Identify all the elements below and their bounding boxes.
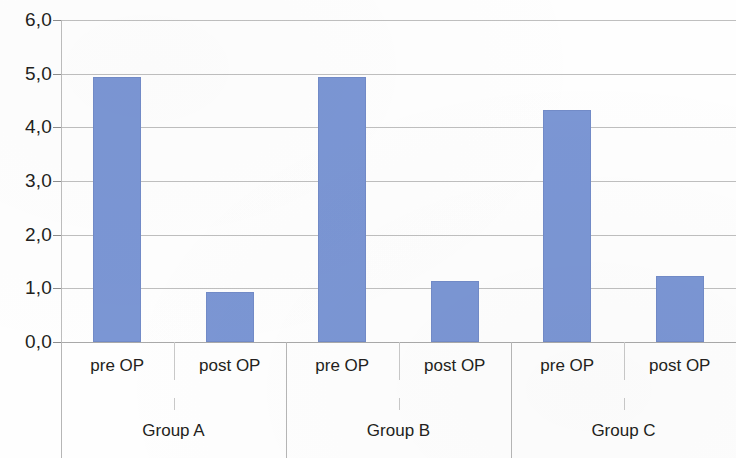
group-label-cell: Group B — [286, 398, 511, 458]
y-axis-tick-label: 6,0 — [6, 9, 52, 31]
condition-label: post OP — [199, 356, 260, 376]
group-label-cell: Group A — [61, 398, 286, 458]
category-axis: pre OPpost OPpre OPpost OPpre OPpost OP … — [61, 342, 736, 458]
y-axis-tick-label: 1,0 — [6, 277, 52, 299]
y-axis-tick — [53, 342, 61, 343]
y-axis-tick-label: 3,0 — [6, 170, 52, 192]
group-center-tick — [399, 398, 400, 410]
condition-label: post OP — [424, 356, 485, 376]
group-label-cell: Group C — [511, 398, 736, 458]
y-axis-tick — [53, 288, 61, 289]
group-center-tick — [624, 398, 625, 410]
condition-label-cell: pre OP — [286, 342, 399, 398]
condition-label-cell: pre OP — [511, 342, 624, 398]
condition-label-row: pre OPpost OPpre OPpost OPpre OPpost OP — [61, 342, 736, 398]
y-axis-tick — [53, 181, 61, 182]
y-axis-tick — [53, 20, 61, 21]
y-axis-tick-label: 4,0 — [6, 116, 52, 138]
bar — [93, 77, 141, 342]
group-label-row: Group AGroup BGroup C — [61, 398, 736, 458]
condition-label: post OP — [649, 356, 710, 376]
bar — [206, 292, 254, 342]
bar — [543, 110, 591, 342]
group-label: Group B — [367, 421, 430, 441]
y-axis-tick-label: 2,0 — [6, 224, 52, 246]
bar-chart: 6,05,04,03,02,01,00,0 pre OPpost OPpre O… — [0, 0, 736, 458]
bar — [318, 77, 366, 342]
y-axis-tick-label: 5,0 — [6, 63, 52, 85]
plot-area — [61, 20, 736, 342]
condition-label-cell: post OP — [624, 342, 736, 398]
group-label: Group C — [591, 421, 655, 441]
condition-label: pre OP — [90, 356, 144, 376]
y-axis-tick-label: 0,0 — [6, 331, 52, 353]
condition-label: pre OP — [540, 356, 594, 376]
condition-label-cell: post OP — [399, 342, 512, 398]
y-axis-tick — [53, 127, 61, 128]
condition-label: pre OP — [315, 356, 369, 376]
bar — [656, 276, 704, 342]
group-center-tick — [174, 398, 175, 410]
bars-layer — [61, 20, 736, 342]
y-axis-tick — [53, 235, 61, 236]
y-axis: 6,05,04,03,02,01,00,0 — [0, 0, 52, 458]
group-label: Group A — [142, 421, 204, 441]
condition-label-cell: pre OP — [61, 342, 174, 398]
y-axis-tick — [53, 74, 61, 75]
bar — [431, 281, 479, 342]
condition-label-cell: post OP — [174, 342, 287, 398]
